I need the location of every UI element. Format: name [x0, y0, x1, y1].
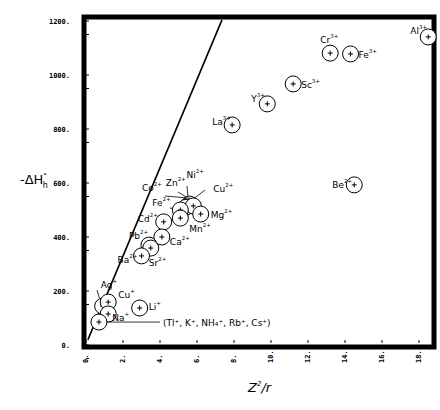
ion-label: Co2+: [142, 181, 162, 193]
y-tick-label: 0.: [62, 342, 70, 350]
data-point: [343, 46, 359, 62]
plot-border: [84, 17, 434, 347]
ion-label: Li+: [149, 300, 162, 312]
reference-line-path: [88, 20, 222, 340]
x-tick-label: 18.: [415, 350, 423, 363]
ion-label: Cu2+: [213, 182, 233, 194]
ion-label: Na+: [112, 311, 129, 323]
ion-label: Sr2+: [149, 256, 167, 268]
y-axis-title: -ΔH°h: [20, 172, 48, 190]
ion-label: Ca2+: [170, 235, 190, 247]
y-tick-label: 1000.: [49, 72, 70, 80]
ion-label: Mn2+: [189, 222, 211, 234]
y-tick-label: 400.: [53, 234, 70, 242]
ion-label: Ba2+: [118, 253, 138, 265]
x-tick-label: 4.: [156, 355, 164, 363]
data-point: [132, 300, 148, 316]
x-tick-label: 0.: [82, 355, 90, 363]
reference-line: [88, 20, 222, 340]
ion-label: Zn2+: [166, 176, 186, 188]
x-tick-label: 16.: [378, 350, 386, 363]
data-point: [193, 206, 209, 222]
ion-label: Cd2+: [138, 212, 158, 224]
ion-labels: Al3+Cr3+Fe3+Sc3+Y3+La3+Be2+Ni2+Zn2+Co2+C…: [101, 24, 428, 323]
data-points: [91, 29, 436, 330]
data-point: [259, 96, 275, 112]
data-point: [172, 210, 188, 226]
x-tick-label: 2.: [119, 355, 127, 363]
x-tick-label: 12.: [304, 350, 312, 363]
data-point: [91, 314, 107, 330]
ion-label: Mg2+: [211, 208, 233, 220]
data-point: [285, 76, 301, 92]
x-tick-label: 6.: [193, 355, 201, 363]
scatter-chart: 0.200.400.600.800.1000.1200. 0.2.4.6.8.1…: [0, 0, 440, 410]
x-tick-label: 8.: [230, 355, 238, 363]
ion-label: Ni2+: [187, 168, 205, 180]
x-tick-label: 10.: [267, 350, 275, 363]
data-point: [322, 45, 338, 61]
group-annotation-label: (Tl⁺, K⁺, NH₄⁺, Rb⁺, Cs⁺): [163, 318, 271, 328]
x-axis-title: Z2/r: [247, 380, 273, 395]
ion-label: Cr3+: [320, 33, 338, 45]
y-tick-label: 1200.: [49, 18, 70, 26]
data-point: [156, 214, 172, 230]
ion-label: Cu+: [118, 288, 135, 300]
ion-label: Fe2+: [152, 196, 171, 208]
y-tick-label: 800.: [53, 126, 70, 134]
plot-frame: [84, 17, 434, 347]
ion-label: Fe3+: [359, 48, 378, 60]
ion-label: Sc3+: [301, 78, 320, 90]
y-tick-label: 200.: [53, 288, 70, 296]
x-tick-label: 14.: [341, 350, 349, 363]
ion-label: Ag+: [101, 278, 118, 290]
data-point: [420, 29, 436, 45]
y-tick-label: 600.: [53, 180, 70, 188]
x-axis-ticks: 0.2.4.6.8.10.12.14.16.18.: [82, 340, 423, 363]
